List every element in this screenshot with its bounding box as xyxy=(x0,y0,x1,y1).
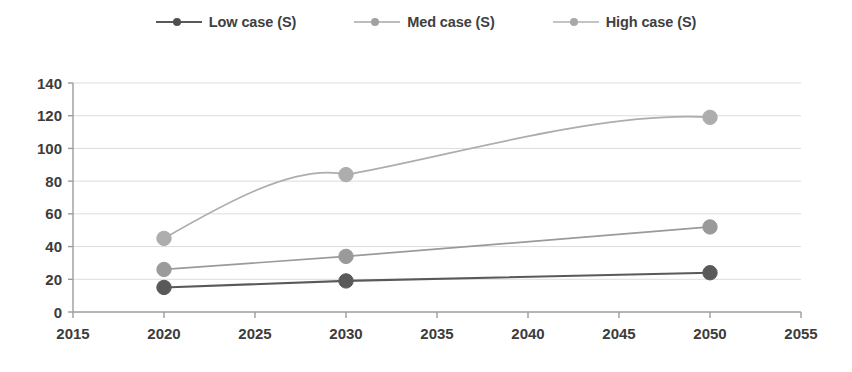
y-tick-label-140: 140 xyxy=(37,75,62,92)
x-axis-ticks xyxy=(73,312,801,318)
datapoint-high-case-s-2030[interactable] xyxy=(339,167,353,181)
y-tick-label-60: 60 xyxy=(45,205,62,222)
datapoint-high-case-s-2020[interactable] xyxy=(157,231,171,245)
datapoint-low-case-s-2020[interactable] xyxy=(157,280,171,294)
y-tick-label-80: 80 xyxy=(45,173,62,190)
x-tick-label-2035: 2035 xyxy=(420,325,453,342)
y-tick-label-20: 20 xyxy=(45,271,62,288)
y-tick-label-120: 120 xyxy=(37,107,62,124)
datapoint-high-case-s-2050[interactable] xyxy=(703,110,717,124)
datapoint-low-case-s-2030[interactable] xyxy=(339,274,353,288)
x-tick-label-2050: 2050 xyxy=(693,325,726,342)
plot-area: 020406080100120140 201520202025203020352… xyxy=(0,0,852,372)
line-med-case-s xyxy=(164,227,710,270)
datapoint-med-case-s-2030[interactable] xyxy=(339,249,353,263)
x-axis-tick-labels: 201520202025203020352040204520502055 xyxy=(56,325,817,342)
series-low-case-s xyxy=(157,266,717,295)
y-tick-label-40: 40 xyxy=(45,238,62,255)
line-low-case-s xyxy=(164,273,710,288)
x-tick-label-2030: 2030 xyxy=(329,325,362,342)
x-tick-label-2040: 2040 xyxy=(511,325,544,342)
series-high-case-s xyxy=(157,110,717,245)
datapoint-low-case-s-2050[interactable] xyxy=(703,266,717,280)
series-med-case-s xyxy=(157,220,717,277)
datapoint-med-case-s-2020[interactable] xyxy=(157,262,171,276)
y-axis-tick-labels: 020406080100120140 xyxy=(37,75,62,321)
x-tick-label-2055: 2055 xyxy=(784,325,817,342)
y-axis-ticks xyxy=(68,83,73,312)
x-tick-label-2045: 2045 xyxy=(602,325,635,342)
x-tick-label-2020: 2020 xyxy=(147,325,180,342)
y-tick-label-100: 100 xyxy=(37,140,62,157)
x-tick-label-2015: 2015 xyxy=(56,325,89,342)
x-tick-label-2025: 2025 xyxy=(238,325,271,342)
data-series-group xyxy=(157,110,717,295)
chart-container: Low case (S) Med case (S) High case (S) xyxy=(0,0,852,372)
line-high-case-s xyxy=(164,117,710,239)
plot-svg: 020406080100120140 201520202025203020352… xyxy=(0,0,852,372)
datapoint-med-case-s-2050[interactable] xyxy=(703,220,717,234)
y-tick-label-0: 0 xyxy=(54,304,62,321)
